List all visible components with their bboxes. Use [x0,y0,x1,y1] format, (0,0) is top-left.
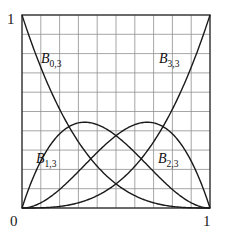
curve-label-b23: B2,3 [158,152,178,169]
curve-label-b03-base: B [41,51,50,66]
curve-label-b03: B0,3 [41,52,61,69]
curve-label-b33: B3,3 [159,52,179,69]
x-axis-tick-label-one: 1 [203,214,211,229]
curve-label-b13-subscript: 1,3 [45,159,57,169]
curve-label-b03-subscript: 0,3 [50,59,62,69]
x-axis-tick-label-zero: 0 [10,214,18,229]
curve-label-b23-subscript: 2,3 [167,159,179,169]
bernstein-basis-figure: 1 0 1 B0,3 B3,3 B1,3 B2,3 [0,0,227,241]
curve-label-b13-base: B [36,151,45,166]
curve-label-b13: B1,3 [36,152,56,169]
curve-label-b33-base: B [159,51,168,66]
plot-canvas [0,0,227,241]
curve-label-b33-subscript: 3,3 [168,59,180,69]
y-axis-tick-label-top: 1 [7,12,15,27]
curve-label-b23-base: B [158,151,167,166]
